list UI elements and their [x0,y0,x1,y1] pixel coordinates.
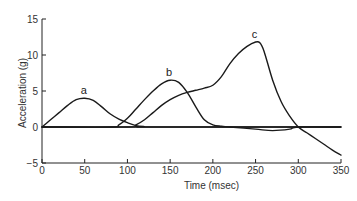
x-tick-label: 250 [247,165,264,176]
y-tick-label: 0 [32,122,38,133]
x-axis-title: Time (msec) [184,180,239,191]
x-tick-label: 200 [205,165,222,176]
series-label-a: a [81,84,88,96]
x-tick-label: 0 [39,165,45,176]
x-tick-label: 350 [333,165,350,176]
y-tick-label: 15 [27,14,39,25]
y-axis-title: Acceleration (g) [17,58,28,128]
y-tick-label: 10 [27,50,39,61]
x-tick-label: 300 [290,165,307,176]
series-group [42,42,341,156]
series-line-b [42,80,341,130]
acceleration-chart: −5051015050100150200250300350 abc Time (… [0,0,357,201]
series-label-c: c [252,28,258,40]
y-tick-label: −5 [27,158,39,169]
x-tick-label: 50 [79,165,91,176]
x-tick-label: 100 [119,165,136,176]
series-label-b: b [166,66,172,78]
series-line-a [42,98,341,127]
x-tick-label: 150 [162,165,179,176]
y-tick-label: 5 [32,86,38,97]
